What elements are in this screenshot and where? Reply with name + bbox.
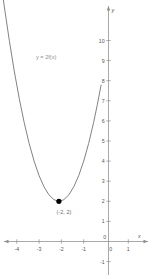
x-tick-label: -4 [14, 246, 19, 252]
x-tick-label-origin: 0 [109, 246, 112, 252]
x-tick-label: -3 [37, 246, 42, 252]
y-tick-label: 7 [102, 98, 105, 104]
x-axis-arrow [144, 240, 149, 243]
graph-figure: -4 -3 -2 -1 0 1 -1 1 2 3 4 5 6 7 8 9 10 … [0, 0, 156, 279]
x-axis-label: x [137, 233, 141, 239]
parabola-curve [1, 0, 101, 201]
y-tick-label: 6 [102, 118, 105, 124]
y-tick-label: 10 [99, 38, 105, 44]
y-axis-label: y [111, 7, 115, 13]
x-tick-label: 1 [127, 246, 130, 252]
x-tick-label: -2 [59, 246, 64, 252]
y-tick-label: 3 [102, 178, 105, 184]
origin-label: 0 [103, 234, 106, 240]
y-axis-arrow [107, 6, 110, 11]
vertex-point-marker [56, 199, 61, 204]
y-axis [107, 6, 110, 275]
y-tick-label: 2 [102, 198, 105, 204]
plot-area: -4 -3 -2 -1 0 1 -1 1 2 3 4 5 6 7 8 9 10 … [0, 0, 156, 279]
curve-equation-label: y = 2f(x) [36, 54, 56, 60]
y-tick-label: 4 [102, 158, 105, 164]
x-axis [4, 240, 148, 243]
x-tick-label: -1 [81, 246, 86, 252]
vertex-point-label: (-2, 2) [56, 209, 71, 215]
y-tick-label: 9 [102, 58, 105, 64]
y-tick-label: 8 [102, 78, 105, 84]
y-tick-label: -1 [100, 259, 105, 265]
x-axis-arrow-left [4, 240, 9, 243]
y-tick-label: 5 [102, 138, 105, 144]
y-tick-label: 1 [102, 218, 105, 224]
